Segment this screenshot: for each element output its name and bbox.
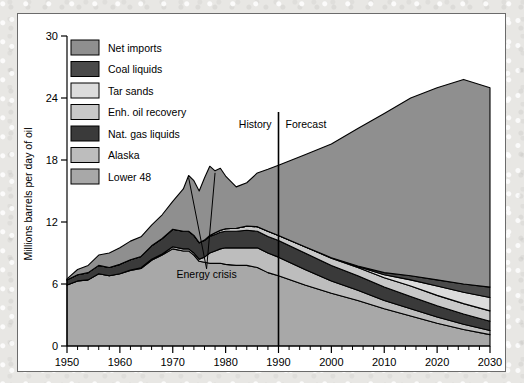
x-tick-label: 1970 (161, 356, 185, 368)
legend-swatch-alaska (71, 148, 99, 163)
y-tick-label: 18 (46, 154, 58, 166)
x-tick-label: 1980 (213, 356, 237, 368)
legend-swatch-coal-liquids (71, 62, 99, 77)
legend-label-tar-sands: Tar sands (108, 85, 154, 97)
forecast-label: Forecast (286, 118, 327, 130)
y-axis-title: Millions barrels per day of oil (22, 127, 34, 260)
x-tick-label: 2000 (319, 356, 343, 368)
x-tick-label: 2020 (425, 356, 449, 368)
legend-swatch-lower-48 (71, 169, 99, 184)
y-tick-label: 0 (52, 340, 58, 352)
x-tick-label: 2030 (478, 356, 502, 368)
y-tick-label: 30 (46, 30, 58, 42)
history-label: History (239, 118, 272, 130)
figure-panel: Millions barrels per day of oil 06121824… (17, 13, 506, 372)
legend-label-enh-oil-recovery: Enh. oil recovery (108, 106, 187, 118)
legend-swatch-nat-gas-liquids (71, 126, 99, 141)
y-tick-label: 12 (46, 216, 58, 228)
legend-swatch-net-imports (71, 40, 99, 55)
y-tick-label: 24 (46, 92, 58, 104)
legend-swatch-tar-sands (71, 83, 99, 98)
legend-label-net-imports: Net imports (108, 42, 162, 54)
x-tick-label: 1950 (55, 356, 79, 368)
x-tick-label: 1960 (108, 356, 132, 368)
x-tick-label: 1990 (266, 356, 290, 368)
legend-swatch-enh-oil-recovery (71, 105, 99, 120)
y-tick-label: 6 (52, 278, 58, 290)
oil-supply-stacked-area-chart: Millions barrels per day of oil 06121824… (18, 14, 505, 371)
energy-crisis-label: Energy crisis (177, 268, 237, 280)
x-axis-ticks: 195019601970198019902000201020202030 (55, 346, 502, 368)
x-tick-label: 2010 (372, 356, 396, 368)
chart-svg: Millions barrels per day of oil 06121824… (18, 14, 505, 371)
y-axis-ticks: 0612182430 (46, 30, 67, 352)
legend: Net importsCoal liquidsTar sandsEnh. oil… (71, 40, 187, 184)
legend-label-nat-gas-liquids: Nat. gas liquids (108, 128, 180, 140)
legend-label-coal-liquids: Coal liquids (108, 63, 162, 75)
legend-label-lower-48: Lower 48 (108, 171, 151, 183)
legend-label-alaska: Alaska (108, 149, 140, 161)
